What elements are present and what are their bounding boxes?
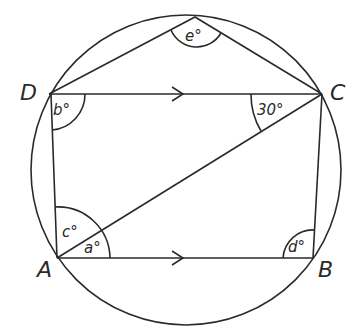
geometry-diagram: D C A B e° b° 30° c° a° d°	[0, 0, 353, 333]
circumcircle	[31, 15, 341, 325]
angle-label-e: e°	[185, 27, 202, 45]
angle-label-d: d°	[288, 238, 305, 256]
vertex-label-C: C	[330, 80, 346, 105]
angle-label-c: c°	[62, 223, 78, 241]
angle-label-b: b°	[53, 101, 70, 119]
vertex-label-D: D	[20, 80, 37, 105]
vertex-label-A: A	[35, 257, 52, 282]
angle-label-30: 30°	[257, 101, 284, 119]
side-CB	[313, 94, 322, 258]
vertex-label-B: B	[318, 257, 333, 282]
angle-label-a: a°	[84, 239, 101, 257]
